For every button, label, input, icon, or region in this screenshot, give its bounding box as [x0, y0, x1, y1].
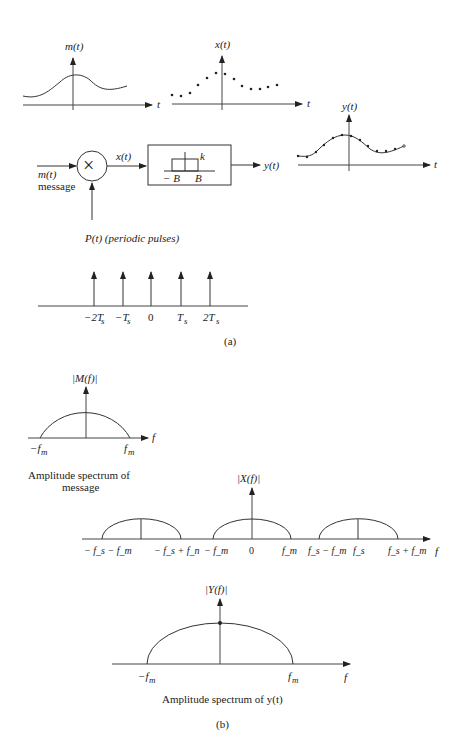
f-axis-label: f	[152, 431, 157, 443]
Y-f-label: |Y(f)|	[205, 583, 228, 596]
input-sub-label: message	[38, 180, 75, 192]
tick-label: 0	[249, 545, 254, 556]
tick-label: 0	[148, 311, 154, 323]
M-f-label: |M(f)|	[72, 372, 98, 385]
x-t-label: x(t)	[214, 38, 231, 51]
tick-label: T	[177, 311, 184, 323]
X-f-spectrum: |X(f)| f − f_s − f_m − f_s + f_n − f_m 0…	[82, 472, 440, 557]
pulse-label: P(t) (periodic pulses)	[84, 232, 179, 245]
sub: m	[41, 447, 48, 457]
x-t-plot: x(t) t	[171, 38, 311, 110]
tick-label: f_m	[282, 545, 297, 556]
M-f-spectrum: |M(f)| f −f m f m Amplitude spectrum of …	[28, 372, 157, 493]
m-t-plot: m(t) t	[23, 40, 161, 110]
tick-label: f_s	[353, 545, 365, 556]
Y-caption: Amplitude spectrum of y(t)	[162, 693, 283, 706]
M-caption: Amplitude spectrum of	[28, 469, 130, 481]
sub: m	[292, 675, 299, 685]
y-t-plot: y(t) t	[297, 100, 438, 171]
tick-sub: s	[101, 316, 105, 326]
tick-sub: s	[216, 316, 220, 326]
X-f-label: |X(f)|	[237, 472, 260, 485]
caption-b: (b)	[216, 718, 229, 731]
m-t-label: m(t)	[65, 40, 84, 53]
multiply-icon: ×	[83, 154, 94, 176]
output-label: y(t)	[263, 159, 280, 172]
Y-f-spectrum: |Y(f)| f −f m f m Amplitude spectrum of …	[112, 583, 350, 731]
filter-pos-b: B	[195, 172, 202, 184]
caption-a: (a)	[224, 335, 237, 348]
tick-sub: s	[127, 316, 131, 326]
sub: m	[149, 675, 156, 685]
mult-output-label: x(t)	[115, 150, 132, 163]
M-caption-2: message	[62, 481, 99, 493]
pulse-train: −2T s −T s 0 T s 2T s (a)	[38, 272, 248, 348]
t-axis-label: t	[157, 98, 161, 110]
tick-sub: s	[184, 316, 188, 326]
sampling-diagram: m(t) t x(t) t y(t) t m(t)	[0, 0, 463, 741]
t-axis-label: t	[307, 97, 311, 109]
f-axis-label: f	[344, 671, 349, 683]
tick-label: f_s + f_m	[388, 545, 426, 556]
filter-neg-b: − B	[163, 172, 180, 184]
y-t-label: y(t)	[341, 100, 358, 113]
lowpass-filter	[148, 145, 231, 185]
f-axis-label: f	[435, 545, 440, 557]
t-axis-label: t	[434, 158, 438, 170]
sub: m	[128, 447, 135, 457]
tick-label: − f_s − f_m	[84, 545, 132, 556]
filter-gain-label: k	[200, 150, 206, 162]
tick-label: f_s − f_m	[308, 545, 346, 556]
tick-label: − f_s + f_n	[154, 545, 199, 556]
tick-label: − f_m	[204, 545, 228, 556]
tick-label: 2T	[203, 311, 216, 323]
block-diagram: m(t) message × x(t) P(t) (periodic pulse…	[37, 145, 280, 245]
